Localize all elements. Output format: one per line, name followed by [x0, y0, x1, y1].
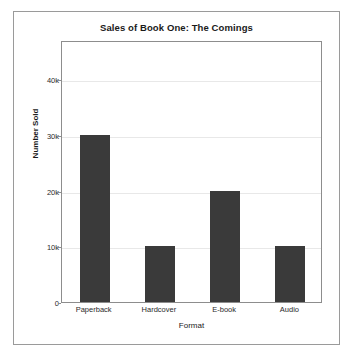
- plot-inner: [62, 42, 321, 302]
- bar-paperback: [80, 135, 110, 302]
- y-tick-label: 20k: [13, 187, 59, 196]
- x-axis-title: Format: [61, 321, 322, 330]
- x-tick-label: Paperback: [76, 305, 112, 314]
- y-tick-label: 30k: [13, 131, 59, 140]
- bar-e-book: [210, 191, 240, 302]
- x-axis-ticks: PaperbackHardcoverE-bookAudio: [61, 305, 322, 319]
- chart-title: Sales of Book One: The Comings: [13, 22, 340, 33]
- gridline: [62, 81, 321, 82]
- y-tick-mark: [58, 303, 61, 304]
- x-tick-label: E-book: [212, 305, 236, 314]
- chart-figure: Sales of Book One: The Comings Number So…: [0, 0, 349, 361]
- plot-area: [61, 41, 322, 303]
- bar-audio: [275, 246, 305, 302]
- y-tick-label: 40k: [13, 76, 59, 85]
- bar-hardcover: [145, 246, 175, 302]
- y-tick-label: 10k: [13, 243, 59, 252]
- x-tick-label: Audio: [280, 305, 299, 314]
- y-axis-ticks: 010k20k30k40k: [9, 41, 59, 303]
- y-tick-label: 0: [13, 299, 59, 308]
- x-tick-label: Hardcover: [142, 305, 177, 314]
